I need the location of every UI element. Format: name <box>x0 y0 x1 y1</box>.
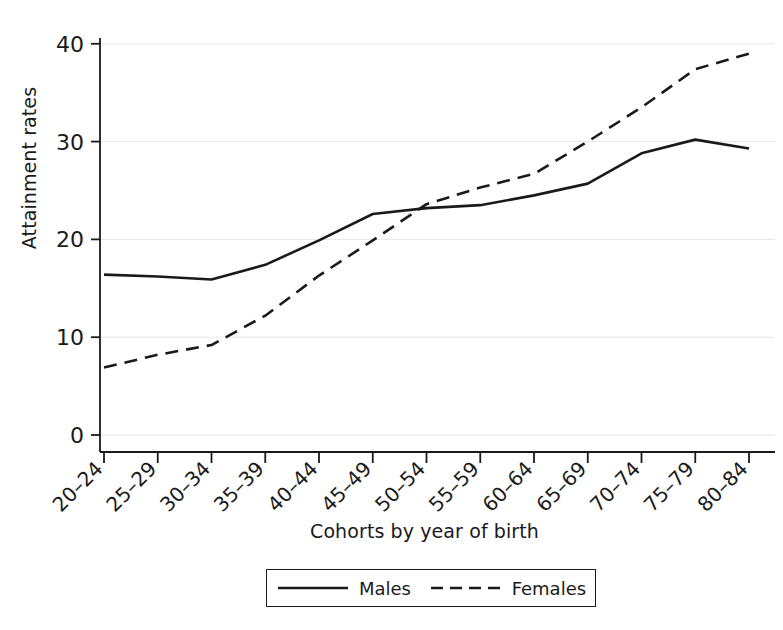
legend-swatch-solid-line <box>276 581 350 595</box>
x-axis-tick-label: 65–69 <box>531 457 591 517</box>
y-axis-tick-label: 40 <box>56 32 84 57</box>
x-axis-tick-label: 80–84 <box>692 457 752 517</box>
chart-figure: Attainment rates 010203040 20–2425–2930–… <box>0 0 783 630</box>
legend-swatch-dashed-line <box>429 581 503 595</box>
x-axis-tick-label: 35–39 <box>209 457 269 517</box>
x-axis-tick-labels: 20–2425–2930–3435–3940–4445–4950–5455–59… <box>47 457 752 517</box>
y-axis-tick-label: 10 <box>56 325 84 350</box>
x-axis-tick-label: 20–24 <box>47 457 107 517</box>
y-axis-tick-label: 30 <box>56 130 84 155</box>
y-axis-ticks: 010203040 <box>56 32 100 448</box>
x-axis-tick-label: 25–29 <box>101 457 161 517</box>
series-line-females <box>104 54 749 368</box>
legend-item-males: Males <box>276 578 411 599</box>
x-axis-tick-label: 50–54 <box>370 457 430 517</box>
x-axis-title-wrap: Cohorts by year of birth <box>0 520 783 542</box>
x-axis-tick-label: 70–74 <box>585 457 645 517</box>
x-axis-tick-label: 40–44 <box>262 457 322 517</box>
legend-label-females: Females <box>512 578 586 599</box>
x-axis-tick-label: 45–49 <box>316 457 376 517</box>
chart-legend: Males Females <box>266 569 596 607</box>
y-axis-tick-label: 0 <box>70 423 84 448</box>
x-axis-tick-label: 75–79 <box>639 457 699 517</box>
gridlines <box>100 44 775 435</box>
y-axis-tick-label: 20 <box>56 227 84 252</box>
x-axis-title: Cohorts by year of birth <box>310 520 539 542</box>
series-line-males <box>104 140 749 280</box>
x-axis-tick-label: 30–34 <box>155 457 215 517</box>
legend-item-females: Females <box>429 578 586 599</box>
data-series-layer <box>104 54 749 368</box>
x-axis-tick-label: 60–64 <box>477 457 537 517</box>
legend-label-males: Males <box>359 578 411 599</box>
x-axis-tick-label: 55–59 <box>424 457 484 517</box>
